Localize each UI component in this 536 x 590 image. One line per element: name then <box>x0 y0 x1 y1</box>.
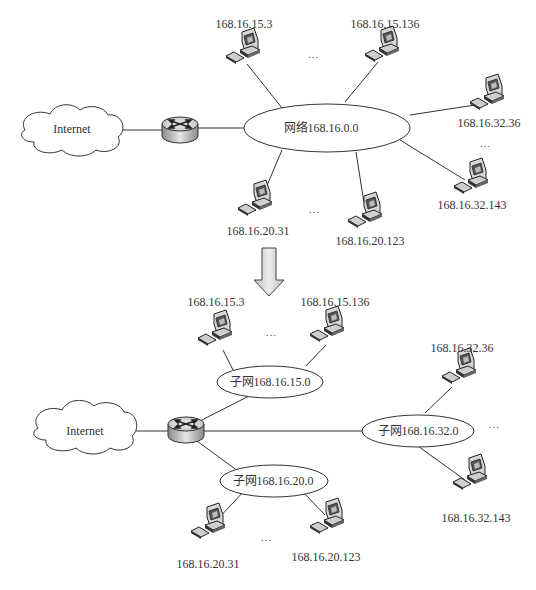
computer-icon <box>238 180 272 216</box>
host-label: 168.16.15.136 <box>301 295 370 309</box>
ellipsis: … <box>309 203 320 215</box>
network-label: 网络168.16.0.0 <box>284 120 359 135</box>
host-label: 168.16.32.36 <box>458 116 521 130</box>
computer-icon <box>348 192 382 228</box>
computer-icon <box>310 306 344 342</box>
ellipsis: … <box>261 531 272 543</box>
subnet-label: 子网168.16.20.0 <box>233 474 314 488</box>
host-label: 168.16.32.143 <box>438 198 507 212</box>
transform-arrow <box>254 248 284 296</box>
computer-icon <box>453 454 487 490</box>
computer-icon <box>365 26 399 62</box>
host-label: 168.16.20.31 <box>177 557 240 571</box>
computer-icon <box>191 503 225 539</box>
router-icon <box>162 117 198 143</box>
host-label: 168.16.20.123 <box>292 550 361 564</box>
subnet-label: 子网168.16.32.0 <box>378 424 459 438</box>
before-diagram: Internet 网络168.16.0.0 168.16.15.3 168.16… <box>22 17 521 248</box>
computer-icon <box>198 310 232 346</box>
host-label: 168.16.32.143 <box>442 511 511 525</box>
router-icon <box>168 417 204 443</box>
cloud-label: Internet <box>66 424 104 438</box>
computer-icon <box>310 498 344 534</box>
computer-icon <box>226 28 260 64</box>
ellipsis: … <box>480 137 491 149</box>
host-label: 168.16.32.36 <box>431 341 494 355</box>
host-label: 168.16.20.123 <box>336 234 405 248</box>
host-label: 168.16.20.31 <box>227 224 290 238</box>
host-label: 168.16.15.3 <box>216 17 273 31</box>
ellipsis: … <box>266 326 277 338</box>
network-diagram: Internet 网络168.16.0.0 168.16.15.3 168.16… <box>0 0 536 590</box>
ellipsis: … <box>489 418 500 430</box>
computer-icon <box>470 74 504 110</box>
ellipsis: … <box>308 48 319 60</box>
host-label: 168.16.15.3 <box>188 295 245 309</box>
internet-cloud: Internet <box>34 400 137 454</box>
internet-cloud: Internet <box>22 105 123 156</box>
subnet-label: 子网168.16.15.0 <box>230 375 311 389</box>
after-diagram: Internet 子网168.16.15.0 子网168.16.32.0 子网1… <box>34 295 511 571</box>
cloud-label: Internet <box>53 122 91 136</box>
host-label: 168.16.15.136 <box>351 17 420 31</box>
